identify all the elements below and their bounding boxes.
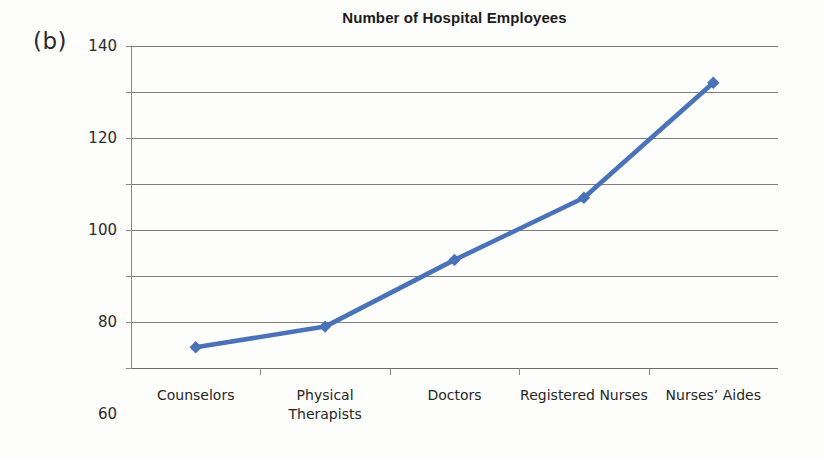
y-axis-tick-label: 80: [98, 313, 117, 331]
y-axis-tick: 0: [126, 368, 132, 369]
x-axis-category-label-line: Doctors: [427, 387, 481, 403]
y-axis-tick-label: 100: [88, 221, 117, 239]
x-axis-tick: [519, 368, 520, 375]
x-axis-tick: [390, 368, 391, 375]
x-axis-tick: [649, 368, 650, 375]
x-axis-category-label: PhysicalTherapists: [288, 386, 361, 424]
chart-figure: (b) Number of Hospital Employees 0204060…: [0, 0, 825, 458]
x-axis-baseline: [131, 368, 778, 369]
x-axis-category-label-line: Counselors: [157, 387, 235, 403]
series-line: [131, 46, 778, 368]
x-axis-category-label-line: Registered Nurses: [520, 387, 648, 403]
panel-label: (b): [33, 28, 67, 54]
y-axis-tick-label: 120: [88, 129, 117, 147]
y-axis-tick-label: 140: [88, 37, 117, 55]
chart-title: Number of Hospital Employees: [131, 9, 778, 26]
data-point-marker: [190, 341, 202, 353]
data-line: [196, 83, 714, 348]
plot-area: 020406080100120140: [131, 46, 778, 368]
x-axis-tick: [260, 368, 261, 375]
x-axis-category-label-line: Therapists: [288, 405, 361, 424]
x-axis-category-label-line: Nurses’ Aides: [666, 387, 761, 403]
x-axis-category-label: Counselors: [157, 386, 235, 405]
y-axis-tick-label: 60: [98, 405, 117, 423]
x-axis-category-label-line: Physical: [297, 387, 354, 403]
x-axis-category-label: Registered Nurses: [520, 386, 648, 405]
x-axis-category-label: Nurses’ Aides: [666, 386, 761, 405]
x-axis-category-label: Doctors: [427, 386, 481, 405]
